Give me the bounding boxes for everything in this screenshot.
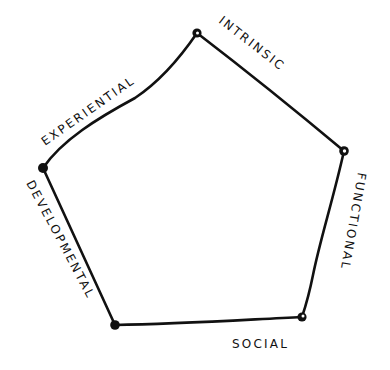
edge-social bbox=[115, 317, 302, 325]
vertex-bottom-right bbox=[297, 312, 306, 321]
label-intrinsic: INTRINSIC bbox=[216, 13, 288, 73]
label-functional: FUNCTIONAL bbox=[338, 171, 369, 271]
edge-developmental bbox=[43, 168, 115, 325]
vertex-bottom-left bbox=[110, 320, 120, 330]
label-developmental: DEVELOPMENTAL bbox=[23, 178, 98, 301]
vertex-top bbox=[192, 28, 201, 37]
edge-functional bbox=[302, 151, 344, 317]
label-social: SOCIAL bbox=[232, 337, 289, 351]
vertex-left bbox=[38, 163, 48, 173]
edge-experiential bbox=[43, 33, 197, 168]
side-labels: INTRINSIC FUNCTIONAL SOCIAL DEVELOPMENTA… bbox=[23, 13, 368, 351]
pentagon-diagram: INTRINSIC FUNCTIONAL SOCIAL DEVELOPMENTA… bbox=[0, 0, 390, 370]
vertex-right bbox=[339, 146, 349, 156]
label-experiential: EXPERIENTIAL bbox=[39, 73, 138, 148]
